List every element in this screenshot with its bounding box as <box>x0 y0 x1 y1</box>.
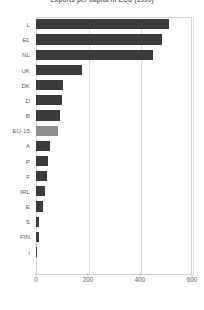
y-axis-label-l: L <box>0 17 33 32</box>
bar-l <box>36 19 169 29</box>
bar-s <box>36 217 39 227</box>
y-axis-label-b: B <box>0 108 33 123</box>
bar-d <box>36 95 62 105</box>
bar-uk <box>36 65 82 75</box>
y-axis-label-el: EL <box>0 32 33 47</box>
bar-eu-15 <box>36 126 58 136</box>
bar-b <box>36 110 60 120</box>
bar-row <box>36 154 192 169</box>
y-axis-label-fin: FIN <box>0 229 33 244</box>
bar-f <box>36 171 47 181</box>
y-axis-label-e: E <box>0 199 33 214</box>
bar-row <box>36 199 192 214</box>
bar-row <box>36 229 192 244</box>
x-axis-label-400: 400 <box>135 276 146 283</box>
bar-el <box>36 34 162 44</box>
bar-fin <box>36 232 39 242</box>
y-axis-label-i: I <box>0 245 33 260</box>
chart-title: Exports per capita in ECU (1999) <box>0 0 204 4</box>
bar-i <box>36 247 37 257</box>
bar-e <box>36 201 43 211</box>
bar-row <box>36 214 192 229</box>
x-axis-ticks: 0200400600 <box>36 276 192 290</box>
bar-row <box>36 47 192 62</box>
y-axis-label-p: P <box>0 154 33 169</box>
bar-nl <box>36 50 153 60</box>
y-axis-label-eu-15: EU-15 <box>0 123 33 138</box>
y-axis-label-irl: IRL <box>0 184 33 199</box>
x-axis-label-0: 0 <box>34 276 38 283</box>
y-axis-label-dk: DK <box>0 78 33 93</box>
bar-row <box>36 123 192 138</box>
bar-row <box>36 32 192 47</box>
y-axis-label-nl: NL <box>0 47 33 62</box>
bar-irl <box>36 186 45 196</box>
y-axis-label-uk: UK <box>0 63 33 78</box>
y-axis-label-d: D <box>0 93 33 108</box>
x-axis-label-600: 600 <box>187 276 198 283</box>
y-axis-label-f: F <box>0 169 33 184</box>
bar-row <box>36 138 192 153</box>
bar-p <box>36 156 48 166</box>
x-axis-label-200: 200 <box>83 276 94 283</box>
bar-row <box>36 184 192 199</box>
bar-row <box>36 63 192 78</box>
bar-rows <box>36 17 192 275</box>
y-axis-label-a: A <box>0 138 33 153</box>
bar-row <box>36 17 192 32</box>
y-axis-label-s: S <box>0 214 33 229</box>
bar-row <box>36 93 192 108</box>
bar-chart: Exports per capita in ECU (1999) LELNLUK… <box>0 0 204 310</box>
bar-a <box>36 141 50 151</box>
bar-row <box>36 245 192 260</box>
gridline-600 <box>193 18 194 274</box>
y-axis-labels: LELNLUKDKDBEU-15APFIRLESFINI <box>0 17 33 275</box>
bar-row <box>36 169 192 184</box>
bar-dk <box>36 80 63 90</box>
bar-row <box>36 108 192 123</box>
bar-row <box>36 78 192 93</box>
